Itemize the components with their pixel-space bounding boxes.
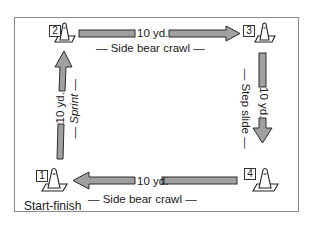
cone-number-1: 1	[36, 170, 48, 182]
dash-right: —	[240, 137, 252, 149]
right-distance-label: 10 yd.	[257, 83, 269, 123]
start-finish-label: Start-finish	[24, 200, 81, 212]
bottom-distance-label: 10 yd.	[137, 176, 168, 188]
cone-number-2: 2	[49, 25, 61, 37]
dash-left: —	[240, 69, 252, 81]
activity-text: Side bear crawl	[103, 193, 182, 205]
top-activity-label: — Side bear crawl —	[96, 43, 205, 55]
dash-right: —	[68, 79, 80, 91]
left-distance-label: 10 yd.	[55, 88, 67, 128]
dash-right: —	[185, 193, 197, 205]
activity-text: Step slide	[240, 83, 252, 134]
dash-left: —	[68, 127, 80, 139]
cone-number-3: 3	[243, 25, 255, 37]
left-activity-label: — Sprint —	[69, 79, 81, 139]
activity-text: Side bear crawl	[111, 42, 190, 54]
dash-right: —	[193, 42, 205, 54]
dash-left: —	[96, 42, 108, 54]
cone-icon-4	[253, 169, 278, 192]
cone-icon-3	[255, 23, 275, 42]
right-activity-label: — Step slide —	[239, 69, 251, 139]
top-distance-label: 10 yd.	[137, 28, 168, 40]
dash-left: —	[88, 193, 100, 205]
bottom-activity-label: — Side bear crawl —	[88, 194, 197, 206]
cone-number-4: 4	[244, 168, 256, 180]
activity-text: Sprint	[68, 94, 80, 124]
